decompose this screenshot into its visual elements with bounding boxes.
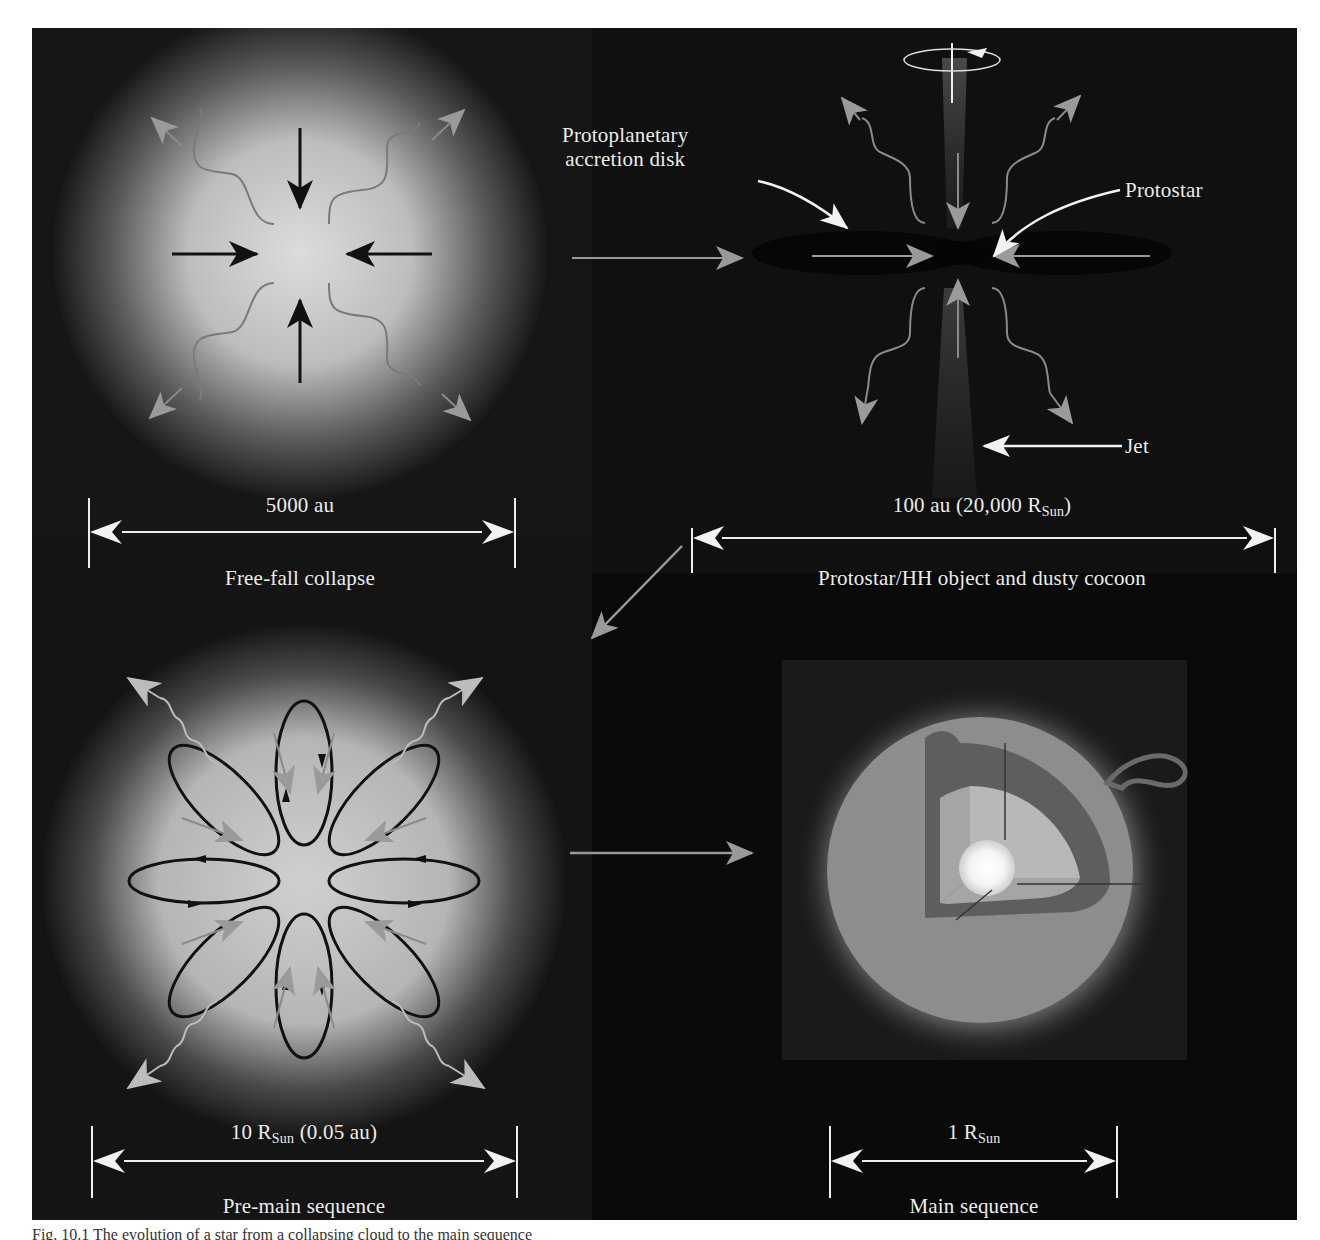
jet-annotation: Jet [1125, 434, 1149, 459]
scale-label-protostar-tail: ) [1064, 493, 1071, 517]
sun-core [959, 840, 1015, 896]
figure-caption: Fig. 10.1 The evolution of a star from a… [32, 1226, 532, 1240]
scale-label-protostar-sub: Sun [1042, 504, 1064, 519]
scale-label-pre-main-sequence: 10 RSun (0.05 au) [231, 1120, 378, 1147]
scale-label-protostar: 100 au (20,000 RSun) [893, 493, 1072, 520]
scale-label-pms-sub: Sun [272, 1131, 294, 1146]
scale-label-pms-main: 10 R [231, 1120, 272, 1144]
star-formation-figure: 5000 au Free-fall collapse Protoplanetar… [32, 28, 1297, 1220]
disk-annotation-line2: accretion disk [562, 147, 688, 171]
scale-label-ms-sub: Sun [978, 1131, 1000, 1146]
scale-label-protostar-main: 100 au (20,000 R [893, 493, 1042, 517]
scale-label-ms-main: 1 R [948, 1120, 978, 1144]
pre-main-sequence-star [39, 621, 569, 1141]
accretion-disk [914, 241, 994, 265]
disk-annotation-line1: Protoplanetary [562, 123, 688, 147]
protostar-annotation: Protostar [1125, 178, 1203, 203]
stage-label-protostar: Protostar/HH object and dusty cocoon [818, 566, 1146, 591]
scale-label-pms-tail: (0.05 au) [294, 1120, 377, 1144]
disk-annotation: Protoplanetary accretion disk [562, 123, 688, 171]
stage-label-main-sequence: Main sequence [909, 1194, 1038, 1219]
scale-label-main-sequence: 1 RSun [948, 1120, 1001, 1147]
stage-label-free-fall: Free-fall collapse [225, 566, 375, 591]
scale-label-free-fall: 5000 au [266, 493, 334, 518]
stage-label-pre-main-sequence: Pre-main sequence [223, 1194, 386, 1219]
figure-graphics [32, 28, 1297, 1220]
